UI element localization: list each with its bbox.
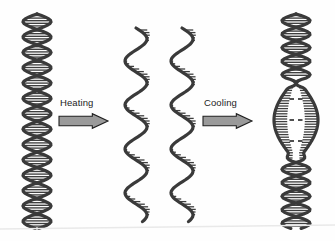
dna-denaturation-diagram: Heating Cooling [0,0,335,241]
diagram-canvas: Heating Cooling [0,0,335,241]
cooling-arrow-label: Cooling [204,97,237,108]
heating-arrow-label: Heating [60,97,93,108]
